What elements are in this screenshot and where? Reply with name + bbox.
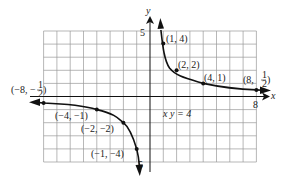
point-label: (4, 1) bbox=[204, 72, 226, 84]
point-label: (2, 2) bbox=[178, 59, 200, 71]
arrow-icon bbox=[29, 99, 40, 107]
svg-text:): ) bbox=[43, 84, 46, 96]
hyperbola-graph: x y 8 5 5 x y = 4 (1, 4) (2, 2) (4, 1) (… bbox=[0, 0, 286, 182]
point-label: (−4, −1) bbox=[55, 110, 88, 122]
equation-label: x y = 4 bbox=[162, 108, 191, 119]
svg-text:(8,: (8, bbox=[243, 74, 254, 86]
arrow-icon bbox=[158, 18, 165, 29]
point-label: (−2, −2) bbox=[81, 123, 114, 135]
point-label: (1, 4) bbox=[166, 33, 188, 45]
x-tick-8: 8 bbox=[253, 99, 258, 110]
point-label-neg8-neghalf: (−8, − 1 2 ) bbox=[11, 79, 46, 99]
x-axis-label: x bbox=[270, 90, 276, 101]
y-axis-label: y bbox=[145, 5, 151, 16]
svg-text:(−8, −: (−8, − bbox=[11, 84, 36, 96]
svg-text:): ) bbox=[267, 74, 270, 86]
y-tick-5: 5 bbox=[140, 27, 145, 38]
point-label: (−1, −4) bbox=[91, 148, 124, 160]
arrow-icon bbox=[136, 165, 144, 177]
